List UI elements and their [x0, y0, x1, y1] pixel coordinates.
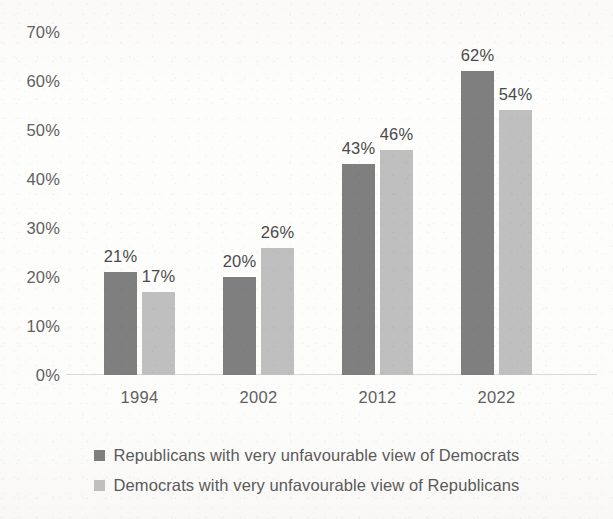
bar-group: 20% 26% 2002	[219, 32, 298, 375]
chart-page: 70% 60% 50% 40% 30% 20% 10% 0% 21% 17% 1…	[0, 0, 613, 519]
y-axis: 70% 60% 50% 40% 30% 20% 10% 0%	[0, 32, 60, 375]
chart-legend: Republicans with very unfavourable view …	[0, 440, 613, 500]
bar-value-label: 17%	[142, 267, 176, 286]
bar-group: 21% 17% 1994	[100, 32, 179, 375]
bar-value-label: 62%	[461, 46, 495, 65]
bar-democrats[interactable]: 54%	[499, 110, 532, 375]
bar-group: 43% 46% 2012	[338, 32, 417, 375]
y-tick-label: 60%	[2, 71, 60, 90]
bar-republicans[interactable]: 21%	[104, 272, 137, 375]
legend-label: Republicans with very unfavourable view …	[114, 446, 520, 465]
bar-value-label: 54%	[499, 85, 533, 104]
bar-value-label: 20%	[223, 252, 257, 271]
y-tick-label: 0%	[2, 366, 60, 385]
y-tick-label: 40%	[2, 169, 60, 188]
bar-republicans[interactable]: 43%	[342, 164, 375, 375]
bar-democrats[interactable]: 46%	[380, 150, 413, 375]
bar-democrats[interactable]: 17%	[142, 292, 175, 375]
bar-republicans[interactable]: 62%	[461, 71, 494, 375]
plot-area: 21% 17% 1994 20% 26% 2002 43% 46% 2012	[66, 32, 597, 375]
legend-swatch-icon	[94, 480, 105, 491]
bar-value-label: 46%	[380, 125, 414, 144]
bar-democrats[interactable]: 26%	[261, 248, 294, 375]
bar-value-label: 21%	[104, 247, 138, 266]
bar-value-label: 43%	[342, 139, 376, 158]
x-tick-label: 1994	[100, 388, 179, 407]
legend-item-democrats[interactable]: Democrats with very unfavourable view of…	[0, 470, 613, 500]
bar-value-label: 26%	[261, 223, 295, 242]
bar-republicans[interactable]: 20%	[223, 277, 256, 375]
legend-item-republicans[interactable]: Republicans with very unfavourable view …	[0, 440, 613, 470]
x-tick-label: 2022	[457, 388, 536, 407]
bar-group: 62% 54% 2022	[457, 32, 536, 375]
y-tick-label: 50%	[2, 120, 60, 139]
y-tick-label: 20%	[2, 267, 60, 286]
legend-swatch-icon	[94, 450, 105, 461]
legend-label: Democrats with very unfavourable view of…	[114, 476, 520, 495]
x-tick-label: 2012	[338, 388, 417, 407]
x-tick-label: 2002	[219, 388, 298, 407]
y-tick-label: 30%	[2, 218, 60, 237]
y-tick-label: 70%	[2, 23, 60, 42]
y-tick-label: 10%	[2, 316, 60, 335]
